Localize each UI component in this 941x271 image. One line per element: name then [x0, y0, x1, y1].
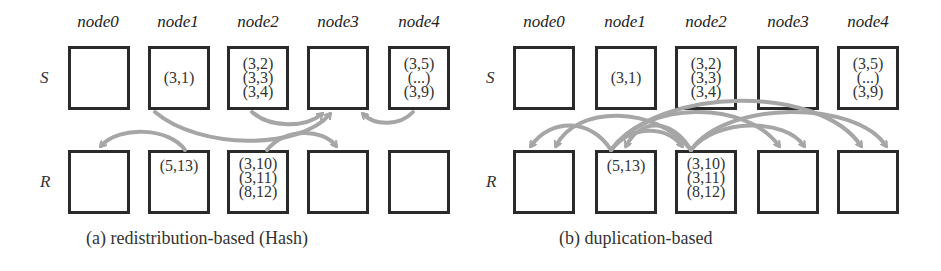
caption-a: (a) redistribution-based (Hash) — [86, 228, 308, 249]
panel-redistribution: node0 node1 node2 node3 node4 S R (3,1) … — [0, 0, 470, 271]
caption-b: (b) duplication-based — [559, 228, 712, 249]
s-node4-box: (3,5) (...) (3,9) — [388, 46, 450, 110]
arrow-s4-to-s3 — [363, 112, 413, 123]
arrow-r1-to-r3 — [611, 112, 779, 150]
tuple: (3,4) — [243, 85, 274, 99]
arrow-r2-to-r3 — [691, 125, 804, 150]
r-node0-box — [68, 150, 130, 214]
r-node2-box: (3,10) (3,11) (8,12) — [675, 150, 737, 214]
node-label-2: node2 — [226, 12, 290, 32]
node-label-3: node3 — [306, 12, 370, 32]
tuple: (3,1) — [611, 69, 642, 87]
node-label-1: node1 — [146, 12, 210, 32]
s-node2-box: (3,2) (3,3) (3,4) — [675, 46, 737, 110]
node-label-0: node0 — [512, 12, 576, 32]
arrow-r2-to-r4 — [691, 112, 886, 150]
s-node3-box — [307, 46, 369, 110]
row-label-r: R — [40, 172, 50, 192]
r-node1-box: (5,13) — [595, 150, 657, 214]
arrow-r2-to-r1 — [626, 125, 691, 150]
s-node1-box: (3,1) — [148, 46, 210, 110]
tuple: (3,9) — [404, 85, 435, 99]
tuple: (8,12) — [239, 185, 278, 199]
arrow-r2-to-r3 — [267, 133, 336, 150]
tuple: (3,1) — [164, 69, 195, 87]
node-label-0: node0 — [66, 12, 130, 32]
tuple: (5,13) — [160, 157, 199, 175]
r-node3-box — [307, 150, 369, 214]
r-node3-box — [757, 150, 819, 214]
arrow-r2-to-r0 — [556, 116, 691, 150]
arrow-s2-to-s3 — [252, 112, 322, 124]
tuple: (3,9) — [853, 85, 884, 99]
s-node0-box — [68, 46, 130, 110]
arrow-r1-to-r2 — [611, 131, 682, 150]
s-node2-box: (3,2) (3,3) (3,4) — [227, 46, 289, 110]
panel-duplication: node0 node1 node2 node3 node4 S R (3,1) … — [446, 0, 916, 271]
s-node3-box — [757, 46, 819, 110]
node-label-1: node1 — [593, 12, 657, 32]
r-node2-box: (3,10) (3,11) (8,12) — [227, 150, 289, 214]
s-node4-box: (3,5) (...) (3,9) — [837, 46, 899, 110]
row-label-s: S — [40, 68, 49, 88]
tuple: (3,4) — [691, 85, 722, 99]
tuple: (8,12) — [687, 185, 726, 199]
node-label-4: node4 — [387, 12, 451, 32]
r-node0-box — [513, 150, 575, 214]
tuple: (5,13) — [607, 157, 646, 175]
row-label-r: R — [486, 172, 496, 192]
r-node4-box — [388, 150, 450, 214]
s-node0-box — [513, 46, 575, 110]
node-label-3: node3 — [756, 12, 820, 32]
node-label-4: node4 — [836, 12, 900, 32]
arrow-r1-to-r0 — [531, 125, 611, 150]
node-label-2: node2 — [674, 12, 738, 32]
r-node4-box — [837, 150, 899, 214]
row-label-s: S — [486, 68, 495, 88]
r-node1-box: (5,13) — [148, 150, 210, 214]
arrow-s1-to-s3 — [155, 112, 330, 141]
arrow-r1-to-r0 — [101, 132, 185, 150]
s-node1-box: (3,1) — [595, 46, 657, 110]
